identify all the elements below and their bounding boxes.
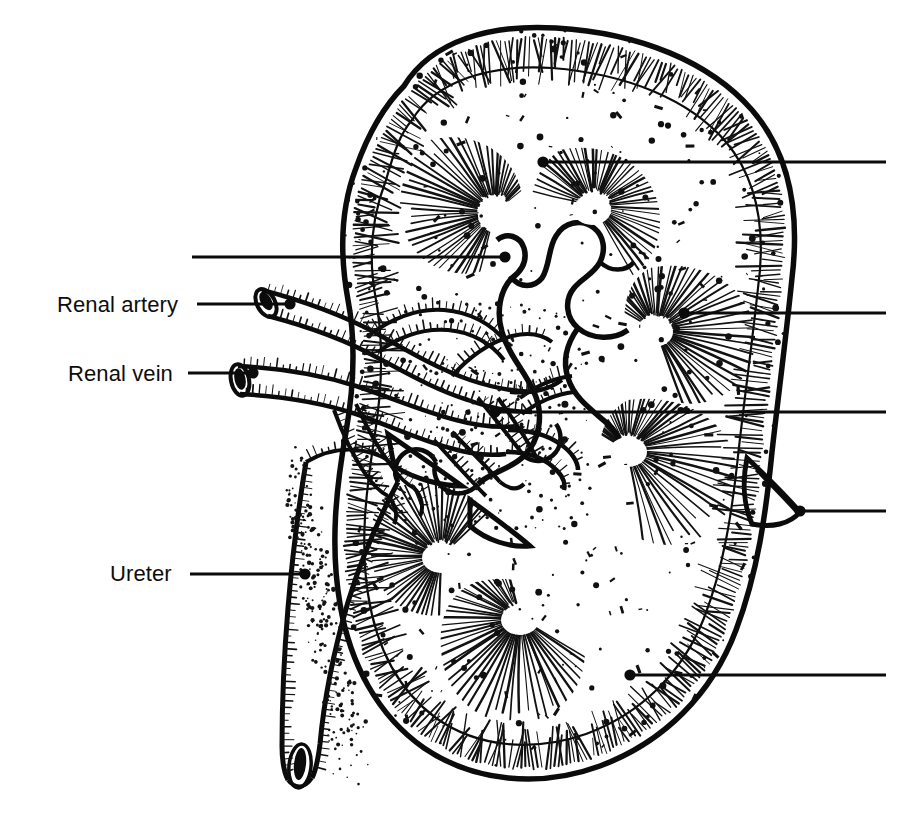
label-renal-artery: Renal artery	[57, 292, 178, 317]
label-ureter: Ureter	[110, 561, 172, 586]
kidney-diagram-svg: Renal arteryRenal veinUreter	[0, 0, 920, 821]
kidney-diagram-figure: Renal arteryRenal veinUreter	[0, 0, 920, 821]
label-renal-vein: Renal vein	[68, 361, 173, 386]
